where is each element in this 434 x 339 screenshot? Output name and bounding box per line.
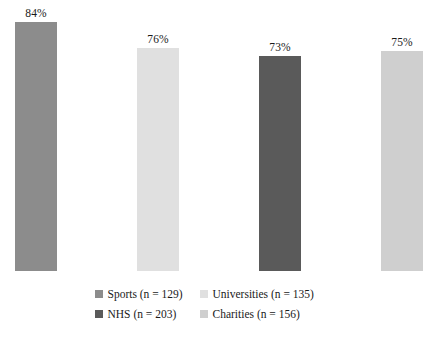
- legend-swatch-icon: [200, 310, 208, 318]
- bar-rect-nhs[interactable]: [259, 56, 301, 271]
- bar-rect-charities[interactable]: [381, 51, 423, 271]
- bar-rect-universities[interactable]: [137, 48, 179, 271]
- chart-legend: Sports (n = 129) Universities (n = 135) …: [0, 284, 434, 324]
- bar-group-charities[interactable]: 75%: [381, 35, 423, 271]
- legend-swatch-icon: [200, 290, 208, 298]
- legend-row: NHS (n = 203) Charities (n = 156): [95, 304, 340, 324]
- legend-label: Universities (n = 135): [213, 288, 314, 301]
- bar-group-universities[interactable]: 76%: [137, 32, 179, 271]
- legend-label: Sports (n = 129): [108, 288, 183, 301]
- legend-label: NHS (n = 203): [108, 308, 177, 321]
- bar-value-label: 75%: [391, 35, 412, 49]
- plot-area: 84% 76% 73% 75%: [0, 0, 434, 275]
- bar-group-sports[interactable]: 84%: [15, 6, 57, 271]
- bar-value-label: 73%: [269, 40, 290, 54]
- legend-row: Sports (n = 129) Universities (n = 135): [95, 284, 340, 304]
- legend-item-nhs[interactable]: NHS (n = 203): [95, 304, 200, 324]
- legend-label: Charities (n = 156): [213, 308, 300, 321]
- legend-swatch-icon: [95, 310, 103, 318]
- legend-item-universities[interactable]: Universities (n = 135): [200, 284, 340, 304]
- legend-swatch-icon: [95, 290, 103, 298]
- legend-item-sports[interactable]: Sports (n = 129): [95, 284, 200, 304]
- bar-group-nhs[interactable]: 73%: [259, 40, 301, 271]
- legend-item-charities[interactable]: Charities (n = 156): [200, 304, 340, 324]
- bar-chart: 84% 76% 73% 75% Sports (n = 129) Univers…: [0, 0, 434, 339]
- bar-value-label: 84%: [25, 6, 46, 20]
- bar-rect-sports[interactable]: [15, 22, 57, 271]
- bar-value-label: 76%: [147, 32, 168, 46]
